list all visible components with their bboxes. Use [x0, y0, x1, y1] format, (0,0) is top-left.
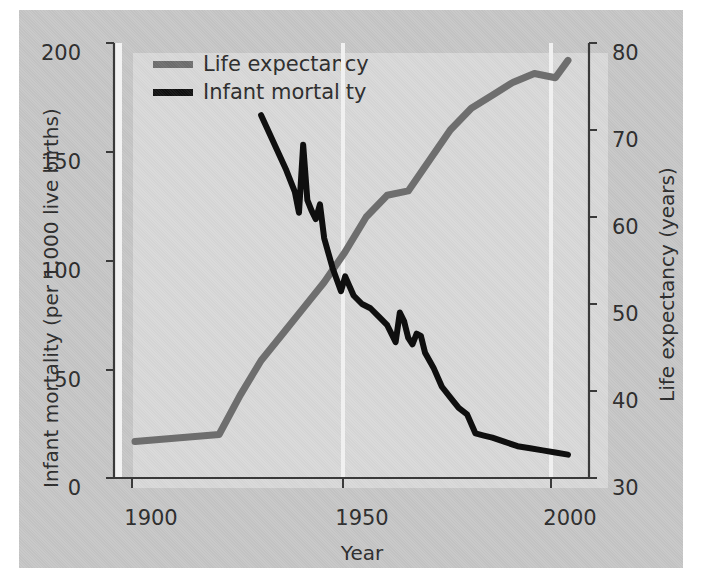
y-left-ticks — [106, 43, 114, 478]
x-ticks — [132, 478, 551, 488]
plot-right-gutter — [549, 43, 553, 478]
y-right-ticks — [589, 43, 597, 478]
plot-left-gutter — [114, 43, 122, 478]
chart-figure: 200 150 100 50 0 80 70 60 50 40 30 1900 … — [0, 0, 702, 587]
axis-spines — [114, 43, 589, 478]
series-line-life-expectancy — [135, 60, 568, 441]
series-line-infant-mortality — [261, 115, 568, 455]
chart-svg — [0, 0, 702, 587]
